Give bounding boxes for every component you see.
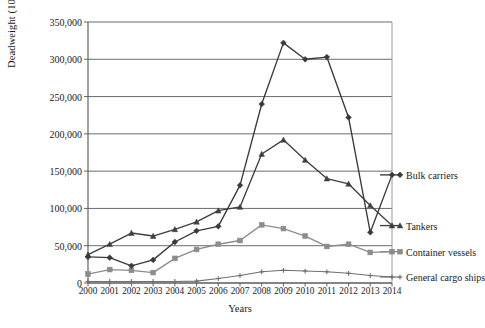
y-tick-label: 350,000 [26, 17, 82, 28]
x-tick-label: 2009 [274, 286, 293, 296]
x-tick-label: 2010 [296, 286, 315, 296]
data-point-marker [194, 247, 199, 252]
data-point-marker [238, 238, 243, 243]
data-point-marker [107, 241, 113, 246]
legend-label-container-vessels: Container vessels [406, 246, 476, 257]
x-tick-label: 2001 [100, 286, 119, 296]
data-point-marker [303, 234, 308, 239]
y-tick-label: 100,000 [26, 203, 82, 214]
data-point-marker [107, 255, 113, 261]
data-point-marker [324, 269, 329, 274]
data-point-marker [215, 223, 221, 229]
data-point-marker [216, 276, 221, 281]
x-axis-title: Years [180, 303, 300, 314]
data-point-marker [85, 254, 91, 260]
data-point-marker [259, 269, 264, 274]
data-point-marker [194, 219, 200, 224]
data-point-marker [259, 101, 265, 107]
y-tick-label: 200,000 [26, 128, 82, 139]
x-tick-label: 2014 [383, 286, 402, 296]
data-point-marker [151, 270, 156, 275]
data-point-marker [281, 137, 287, 142]
data-point-marker [367, 229, 373, 235]
data-point-marker [238, 273, 243, 278]
data-point-marker [172, 256, 177, 261]
data-point-marker [107, 267, 112, 272]
data-point-marker [398, 249, 403, 254]
data-point-marker [397, 172, 403, 178]
x-tick-label: 2008 [252, 286, 271, 296]
data-point-marker [346, 271, 351, 276]
series-line [88, 43, 392, 266]
data-point-marker [368, 250, 373, 255]
series-line [88, 140, 392, 255]
x-tick-label: 2012 [339, 286, 358, 296]
data-point-marker [346, 115, 352, 121]
x-tick-label: 2006 [209, 286, 228, 296]
legend-label-bulk-carriers: Bulk carriers [406, 169, 458, 180]
data-point-marker [303, 269, 308, 274]
y-axis-title: Deadweight (1000 tonnes) [6, 0, 26, 86]
x-tick-label: 2013 [361, 286, 380, 296]
data-point-marker [216, 242, 221, 247]
x-tick-label: 2002 [122, 286, 141, 296]
data-point-marker [281, 268, 286, 273]
data-point-marker [259, 222, 264, 227]
x-tick-label: 2011 [318, 286, 336, 296]
y-tick-label: 150,000 [26, 166, 82, 177]
data-point-marker [398, 275, 403, 280]
y-tick-label: 50,000 [26, 240, 82, 251]
x-tick-label: 2000 [79, 286, 98, 296]
x-tick-label: 2003 [144, 286, 163, 296]
data-point-marker [324, 244, 329, 249]
y-tick-label: 250,000 [26, 91, 82, 102]
legend-label-general-cargo-ships: General cargo ships [406, 272, 485, 283]
legend-label-tankers: Tankers [406, 220, 438, 231]
data-point-marker [237, 182, 243, 188]
legend-stubs [380, 172, 403, 279]
x-tick-label: 2005 [187, 286, 206, 296]
data-point-marker [346, 242, 351, 247]
data-point-marker [368, 273, 373, 278]
y-tick-label: 300,000 [26, 54, 82, 65]
y-tick-label: 0 [26, 278, 82, 289]
data-point-marker [86, 272, 91, 277]
x-tick-label: 2004 [166, 286, 185, 296]
data-point-marker [194, 228, 200, 234]
x-tick-label: 2007 [231, 286, 250, 296]
data-point-marker [281, 226, 286, 231]
